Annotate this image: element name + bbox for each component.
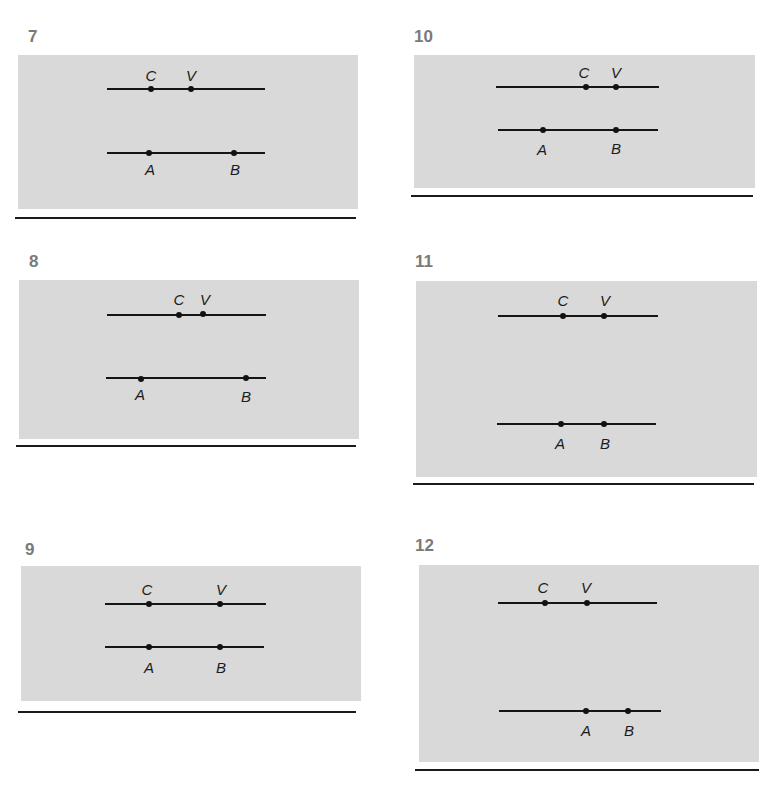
label-b: B (241, 389, 251, 404)
label-a: A (135, 387, 145, 402)
label-a: A (144, 660, 154, 675)
top-line (498, 602, 657, 604)
label-b: B (611, 141, 621, 156)
label-a: A (581, 723, 591, 738)
bottom-line (105, 646, 264, 648)
label-a: A (555, 436, 565, 451)
point-v (188, 86, 194, 92)
panel-background (21, 566, 361, 701)
point-a (146, 644, 152, 650)
point-b (217, 644, 223, 650)
label-c: C (142, 582, 153, 597)
point-c (542, 600, 548, 606)
answer-line (411, 195, 753, 197)
point-c (560, 313, 566, 319)
point-c (176, 312, 182, 318)
top-line (107, 88, 265, 90)
point-c (583, 84, 589, 90)
label-c: C (579, 65, 590, 80)
label-v: V (200, 292, 210, 307)
problem-number: 8 (29, 253, 38, 270)
label-v: V (581, 580, 591, 595)
point-v (200, 311, 206, 317)
answer-line (415, 769, 759, 771)
problem-number: 10 (414, 28, 433, 45)
point-a (558, 421, 564, 427)
label-v: V (186, 68, 196, 83)
problem-number: 9 (25, 541, 34, 558)
point-v (584, 600, 590, 606)
point-b (625, 708, 631, 714)
bottom-line (106, 377, 266, 379)
point-a (540, 127, 546, 133)
label-v: V (611, 65, 621, 80)
answer-line (413, 483, 754, 485)
bottom-line (498, 129, 658, 131)
label-v: V (600, 293, 610, 308)
point-a (583, 708, 589, 714)
label-v: V (216, 582, 226, 597)
point-a (146, 150, 152, 156)
label-b: B (216, 660, 226, 675)
label-a: A (145, 162, 155, 177)
label-b: B (624, 723, 634, 738)
point-a (138, 376, 144, 382)
top-line (496, 86, 659, 88)
label-c: C (558, 293, 569, 308)
bottom-line (499, 710, 661, 712)
panel-background (416, 281, 757, 477)
point-v (601, 313, 607, 319)
top-line (105, 603, 266, 605)
point-b (613, 127, 619, 133)
label-b: B (600, 436, 610, 451)
panel-background (19, 280, 359, 439)
answer-line (16, 445, 356, 447)
bottom-line (497, 423, 656, 425)
top-line (107, 314, 266, 316)
point-v (613, 84, 619, 90)
bottom-line (107, 152, 265, 154)
point-c (148, 86, 154, 92)
answer-line (15, 217, 356, 219)
label-c: C (174, 292, 185, 307)
label-a: A (537, 142, 547, 157)
problem-number: 11 (415, 253, 433, 270)
point-c (146, 601, 152, 607)
label-c: C (538, 580, 549, 595)
label-b: B (230, 162, 240, 177)
label-c: C (146, 68, 157, 83)
problem-number: 7 (28, 28, 37, 45)
point-b (601, 421, 607, 427)
point-v (217, 601, 223, 607)
problem-number: 12 (415, 537, 434, 554)
point-b (231, 150, 237, 156)
top-line (498, 315, 658, 317)
answer-line (18, 711, 356, 713)
point-b (243, 375, 249, 381)
